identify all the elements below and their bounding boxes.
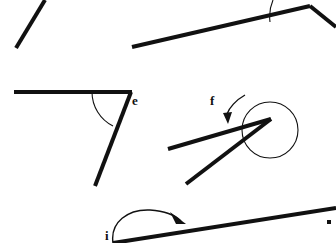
reflex-angle-arrow-arc-f	[227, 95, 245, 114]
line-segment	[16, 0, 45, 48]
angle-ray-short-top-right	[310, 6, 336, 27]
angle-ray-upper-f	[168, 119, 271, 149]
figure-reflex-angle-f	[168, 95, 298, 184]
angle-arc-top-right	[270, 0, 273, 22]
worksheet-canvas: e f i	[0, 0, 336, 243]
angle-label-i: i	[105, 229, 109, 242]
angle-arc-e	[92, 92, 113, 126]
angle-ray-long-top-right	[132, 6, 310, 47]
figure-obtuse-angle-top-right	[132, 0, 336, 47]
figure-angle-i	[113, 208, 336, 243]
figure-angle-e	[14, 92, 132, 186]
figure-plain-line-segment	[16, 0, 45, 48]
angle-arrowhead-i	[170, 212, 186, 224]
angle-label-f: f	[210, 94, 214, 107]
angle-label-e: e	[132, 94, 138, 107]
angle-ray-i	[113, 208, 336, 243]
reflex-angle-circle-f	[242, 102, 298, 158]
figure-corner-tick-mark	[327, 220, 331, 224]
geometry-figures	[0, 0, 336, 243]
corner-tick-icon	[327, 220, 331, 224]
angle-ray-diagonal-e	[95, 92, 131, 186]
angle-ray-lower-f	[186, 119, 271, 184]
reflex-angle-arrowhead-f	[223, 112, 232, 124]
